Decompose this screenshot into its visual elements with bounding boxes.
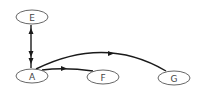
graph-svg: E A F G: [0, 0, 211, 91]
node-label-a: A: [29, 72, 36, 82]
edges: [29, 25, 167, 71]
arrow-down-icon: [29, 51, 34, 57]
node-label-f: F: [100, 73, 105, 83]
arrow-up-icon: [29, 28, 34, 34]
edge-a-g: [36, 51, 166, 71]
node-a[interactable]: A: [16, 69, 48, 83]
arrow-right-icon: [61, 66, 67, 71]
arrow-down-icon: [29, 58, 34, 64]
edge-a-f: [42, 66, 93, 71]
graph-canvas: E A F G: [0, 0, 211, 91]
node-g[interactable]: G: [158, 71, 190, 85]
node-e[interactable]: E: [16, 10, 48, 24]
node-label-g: G: [171, 74, 178, 84]
edge-e-a: [29, 25, 34, 68]
node-f[interactable]: F: [87, 70, 119, 84]
node-label-e: E: [29, 13, 35, 23]
arrow-right-icon: [108, 51, 114, 56]
